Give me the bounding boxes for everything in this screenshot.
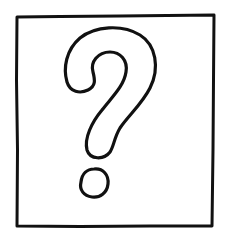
question-mark-illustration: ? [0,0,227,238]
frame-border [17,15,215,227]
question-mark-dot [81,169,109,197]
question-mark-icon [0,0,227,238]
question-mark-hook [65,28,155,158]
